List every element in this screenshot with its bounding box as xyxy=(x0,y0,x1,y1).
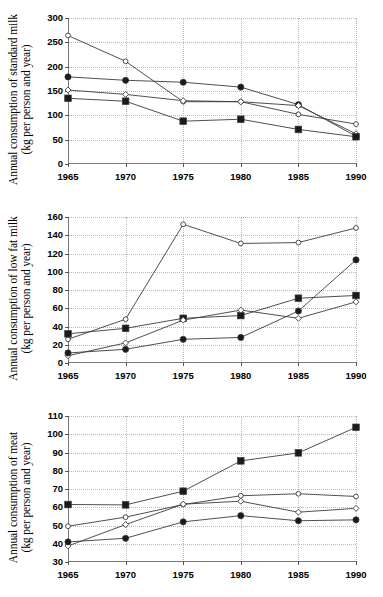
data-point-open-circle-1970 xyxy=(123,317,128,322)
plot-area-meat: 3040506070809010011019651970197519801985… xyxy=(46,398,383,597)
data-point-filled-circle-1965 xyxy=(65,74,71,80)
data-point-filled-square-1970 xyxy=(122,502,129,509)
gridline-vertical xyxy=(356,416,357,562)
data-point-filled-square-1965 xyxy=(65,501,72,508)
y-axis-tick-label: 250 xyxy=(47,38,63,48)
data-point-filled-circle-1975 xyxy=(180,336,186,342)
data-point-filled-circle-1970 xyxy=(123,77,129,83)
data-point-filled-square-1980 xyxy=(238,458,245,465)
y-axis-tick-label: 110 xyxy=(48,411,63,421)
series-layer xyxy=(68,18,356,164)
series-line-open-diamond xyxy=(68,90,356,134)
y-axis-title-line2: (kg per person and year) xyxy=(20,443,33,553)
data-point-filled-circle-1980 xyxy=(238,513,244,519)
data-point-filled-circle-1990 xyxy=(353,517,359,523)
data-point-open-diamond-1970 xyxy=(123,340,129,346)
y-axis-tick-label: 200 xyxy=(47,62,63,72)
data-point-filled-square-1990 xyxy=(353,133,360,140)
y-axis-title-line2: (kg per person and year) xyxy=(20,45,33,155)
data-point-filled-square-1965 xyxy=(65,95,72,102)
y-axis-tick-label: 40 xyxy=(52,322,63,332)
y-axis-tick-label: 40 xyxy=(52,539,63,549)
x-axis-tick-label: 1990 xyxy=(345,172,366,182)
data-point-open-circle-1975 xyxy=(181,222,186,227)
y-axis-tick-label: 80 xyxy=(52,285,63,295)
x-axis-tick-label: 1975 xyxy=(173,570,194,580)
data-point-filled-circle-1975 xyxy=(180,519,186,525)
y-axis-tick-label: 50 xyxy=(52,135,63,145)
data-point-open-diamond-1990 xyxy=(353,505,359,511)
series-line-filled-square xyxy=(68,98,356,136)
y-axis-tick-label: 140 xyxy=(47,231,63,241)
data-point-filled-square-1985 xyxy=(295,126,302,133)
chart-panel-meat: Annual consumption of meat (kg per perso… xyxy=(0,398,383,597)
x-axis-tick-label: 1990 xyxy=(345,371,366,381)
data-point-open-diamond-1985 xyxy=(295,315,301,321)
data-point-open-circle-1990 xyxy=(354,122,359,127)
x-axis-tick-label: 1970 xyxy=(115,570,136,580)
y-axis-title-low-fat-milk: Annual consumption of low fat milk (kg p… xyxy=(0,199,40,398)
data-point-filled-circle-1985 xyxy=(295,308,301,314)
x-axis-tick-label: 1975 xyxy=(173,172,194,182)
data-point-filled-square-1990 xyxy=(353,424,360,431)
x-axis-tick-label: 1985 xyxy=(288,570,309,580)
y-axis-tick-label: 100 xyxy=(47,430,63,440)
x-axis-tick-label: 1985 xyxy=(288,172,309,182)
x-axis-tick-label: 1965 xyxy=(57,371,78,381)
y-axis-tick-label: 50 xyxy=(52,521,63,531)
data-point-open-circle-1970 xyxy=(123,59,128,64)
data-point-open-circle-1985 xyxy=(296,112,301,117)
plot-canvas: 0501001502002503001965197019751980198519… xyxy=(68,18,356,164)
x-axis-tick-label: 1980 xyxy=(230,371,251,381)
data-point-filled-circle-1990 xyxy=(353,257,359,263)
data-point-filled-circle-1970 xyxy=(123,346,129,352)
series-line-filled-square xyxy=(68,427,356,505)
series-line-open-circle xyxy=(68,494,356,526)
gridline-vertical xyxy=(356,18,357,164)
data-point-open-circle-1965 xyxy=(66,524,71,529)
y-axis-tick-label: 80 xyxy=(52,466,63,476)
data-point-filled-square-1975 xyxy=(180,488,187,495)
y-axis-tick-label: 60 xyxy=(52,304,63,314)
series-line-open-circle xyxy=(68,224,356,339)
data-point-open-diamond-1980 xyxy=(238,99,244,105)
data-point-open-circle-1965 xyxy=(66,33,71,38)
y-axis-title-standard-milk: Annual consumption of standard milk (kg … xyxy=(0,0,40,199)
y-axis-title-line1: Annual consumption of standard milk xyxy=(7,14,20,185)
y-axis-tick-label: 150 xyxy=(47,86,63,96)
plot-area-standard-milk: 0501001502002503001965197019751980198519… xyxy=(46,0,383,199)
data-point-open-circle-1980 xyxy=(238,493,243,498)
chart-panel-low-fat-milk: Annual consumption of low fat milk (kg p… xyxy=(0,199,383,398)
data-point-open-circle-1985 xyxy=(296,491,301,496)
y-axis-tick-label: 60 xyxy=(52,503,63,513)
y-axis-tick-label: 20 xyxy=(52,340,63,350)
gridline-vertical xyxy=(356,217,357,363)
series-line-open-diamond xyxy=(68,302,356,356)
plot-canvas: 0204060801001201401601965197019751980198… xyxy=(68,217,356,363)
x-axis-tick-label: 1975 xyxy=(173,371,194,381)
data-point-filled-circle-1965 xyxy=(65,350,71,356)
y-axis-title-line2: (kg per person and year) xyxy=(20,244,33,354)
series-line-filled-circle xyxy=(68,260,356,353)
y-axis-tick-label: 100 xyxy=(47,111,63,121)
x-axis-tick-label: 1970 xyxy=(115,371,136,381)
series-layer xyxy=(68,416,356,562)
y-axis-tick-label: 0 xyxy=(58,358,63,368)
y-axis-tick-label: 300 xyxy=(47,13,63,23)
plot-area-low-fat-milk: 0204060801001201401601965197019751980198… xyxy=(46,199,383,398)
data-point-open-circle-1980 xyxy=(238,241,243,246)
chart-panel-standard-milk: Annual consumption of standard milk (kg … xyxy=(0,0,383,199)
data-point-filled-square-1985 xyxy=(295,450,302,457)
y-axis-title-line1: Annual consumption of low fat milk xyxy=(7,216,20,380)
y-axis-tick-label: 70 xyxy=(52,484,63,494)
y-axis-title-meat: Annual consumption of meat (kg per perso… xyxy=(0,398,40,597)
data-point-filled-square-1985 xyxy=(295,295,302,302)
data-point-filled-circle-1975 xyxy=(180,79,186,85)
data-point-open-circle-1985 xyxy=(296,240,301,245)
x-axis-tick-mark xyxy=(356,163,357,167)
data-point-open-diamond-1970 xyxy=(123,91,129,97)
x-axis-tick-label: 1970 xyxy=(115,172,136,182)
data-point-open-circle-1990 xyxy=(354,226,359,231)
data-point-filled-circle-1980 xyxy=(238,84,244,90)
figure-sheet: Annual consumption of standard milk (kg … xyxy=(0,0,383,597)
